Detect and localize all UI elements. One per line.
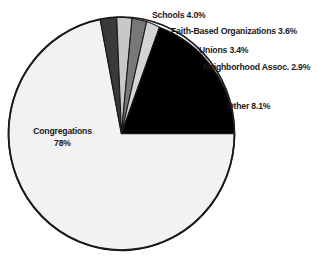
pie-label-faith-based-organizations: Faith-Based Organizations 3.6% [171,26,297,37]
pie-label-other: Other 8.1% [227,101,270,112]
pie-chart: Schools 4.0% Faith-Based Organizations 3… [0,0,326,258]
pie-label-neighborhood-assoc: Neighborhood Assoc. 2.9% [203,62,310,73]
pie-label-congregations: Congregations 78% [33,126,92,149]
pie-label-congregations-name: Congregations [33,126,92,136]
pie-label-unions: Unions 3.4% [199,45,248,56]
pie-label-congregations-value: 78% [33,138,92,150]
pie-label-schools: Schools 4.0% [152,10,206,21]
